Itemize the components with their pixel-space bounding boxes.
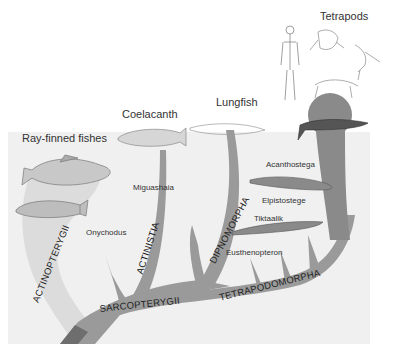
tetrapod-blob xyxy=(308,93,352,137)
coelacanth-fish-icon xyxy=(118,128,186,146)
frog-skeleton-icon xyxy=(310,30,344,50)
onychodus-label: Onychodus xyxy=(86,228,126,237)
acanthostega-label: Acanthostega xyxy=(266,160,315,169)
coelacanth-label: Coelacanth xyxy=(122,108,178,120)
phylogeny-diagram: Ray-finned fishes Coelacanth Lungfish Te… xyxy=(0,0,393,353)
elpistostege-label: Elpistostege xyxy=(262,196,306,205)
miguashaia-label: Miguashaia xyxy=(133,183,174,192)
tiktaalik-label: Tiktaalik xyxy=(254,214,283,223)
eusthenopteron-label: Eusthenopteron xyxy=(226,248,283,257)
human-skeleton-icon xyxy=(281,26,299,100)
tetrapods-label: Tetrapods xyxy=(320,10,368,22)
lungfish-label: Lungfish xyxy=(216,96,258,108)
ray-finned-fishes-label: Ray-finned fishes xyxy=(22,132,107,144)
tree-graphic xyxy=(0,0,393,353)
bird-skeleton-icon xyxy=(355,45,380,80)
